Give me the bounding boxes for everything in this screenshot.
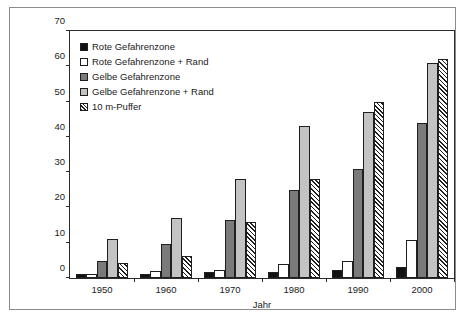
bar-1990-series-4 (374, 102, 385, 278)
x-tick-label: 1990 (347, 284, 368, 295)
bar-1950-series-4 (118, 263, 129, 278)
x-axis-label: Jahr (69, 299, 455, 310)
hatched-swatch (80, 103, 88, 111)
y-tick-mark (66, 206, 70, 207)
x-tick-mark (134, 278, 135, 282)
white-empty-swatch (80, 58, 88, 66)
bar-1990-series-0 (332, 270, 343, 278)
figure-frame: Gebäudewerte [Mio. €] Jahr 0102030405060… (9, 7, 456, 310)
y-tick-mark (66, 242, 70, 243)
y-tick-label: 50 (54, 85, 65, 96)
bar-1980-series-1 (278, 264, 289, 278)
bar-1960-series-2 (161, 244, 172, 278)
legend-item-1: Rote Gefahrenzone + Rand (80, 54, 214, 69)
y-tick-label: 40 (54, 120, 65, 131)
bar-2000-series-4 (438, 59, 449, 278)
bar-1990-series-1 (342, 261, 353, 278)
bar-1980-series-0 (268, 272, 279, 278)
x-tick-mark (390, 278, 391, 282)
x-tick-label: 1980 (283, 284, 304, 295)
y-tick-mark (66, 30, 70, 31)
legend-item-4: 10 m-Puffer (80, 99, 214, 114)
y-tick-label: 20 (54, 191, 65, 202)
x-tick-label: 1970 (219, 284, 240, 295)
y-tick-label: 30 (54, 156, 65, 167)
x-tick-label: 2000 (411, 284, 432, 295)
y-tick-mark (66, 171, 70, 172)
x-tick-mark (326, 278, 327, 282)
bar-1950-series-1 (86, 274, 97, 278)
y-tick-mark (66, 136, 70, 137)
bar-1960-series-3 (171, 218, 182, 278)
y-tick-mark (66, 277, 70, 278)
bar-1950-series-0 (76, 274, 87, 278)
legend-item-3: Gelbe Gefahrenzone + Rand (80, 84, 214, 99)
y-tick-label: 70 (54, 15, 65, 26)
x-tick-label: 1950 (91, 284, 112, 295)
chart-page: Gebäudewerte [Mio. €] Jahr 0102030405060… (0, 0, 465, 325)
chart-legend: Rote GefahrenzoneRote Gefahrenzone + Ran… (80, 39, 214, 114)
y-tick-mark (66, 65, 70, 66)
bar-2000-series-0 (396, 267, 407, 278)
bar-1970-series-0 (204, 272, 215, 278)
legend-label: 10 m-Puffer (92, 101, 141, 112)
bar-1980-series-3 (299, 126, 310, 278)
y-tick-label: 10 (54, 226, 65, 237)
plot-area: 010203040506070 195019601970198019902000… (69, 30, 455, 279)
bar-1970-series-1 (214, 270, 225, 278)
bar-2000-series-3 (427, 63, 438, 278)
x-tick-mark (198, 278, 199, 282)
bar-1950-series-3 (107, 239, 118, 278)
bar-1960-series-4 (182, 256, 193, 278)
x-tick-mark (454, 278, 455, 282)
bar-1970-series-2 (225, 220, 236, 278)
legend-label: Rote Gefahrenzone + Rand (92, 56, 208, 67)
legend-label: Gelbe Gefahrenzone + Rand (92, 86, 214, 97)
plot-inner: 010203040506070 195019601970198019902000… (70, 31, 454, 278)
bar-1960-series-1 (150, 271, 161, 278)
black-filled-swatch (80, 43, 88, 51)
light-gray-swatch (80, 88, 88, 96)
legend-label: Rote Gefahrenzone (92, 41, 175, 52)
bar-1980-series-2 (289, 190, 300, 278)
y-tick-label: 60 (54, 50, 65, 61)
bar-1990-series-2 (353, 169, 364, 278)
y-tick-mark (66, 101, 70, 102)
bar-2000-series-1 (406, 240, 417, 278)
legend-item-2: Gelbe Gefahrenzone (80, 69, 214, 84)
x-tick-mark (262, 278, 263, 282)
bar-1990-series-3 (363, 112, 374, 278)
bar-1980-series-4 (310, 179, 321, 278)
bar-2000-series-2 (417, 123, 428, 278)
bar-1960-series-0 (140, 274, 151, 278)
bar-1970-series-3 (235, 179, 246, 278)
x-tick-label: 1960 (155, 284, 176, 295)
legend-item-0: Rote Gefahrenzone (80, 39, 214, 54)
y-tick-label: 0 (60, 262, 65, 273)
bar-1970-series-4 (246, 222, 257, 278)
bar-1950-series-2 (97, 261, 108, 278)
dark-gray-swatch (80, 73, 88, 81)
legend-label: Gelbe Gefahrenzone (92, 71, 180, 82)
